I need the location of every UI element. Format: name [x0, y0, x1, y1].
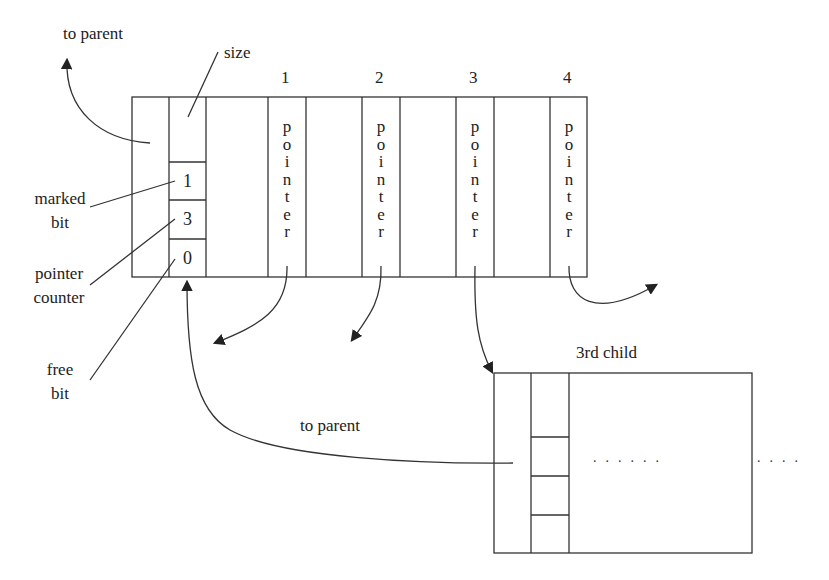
label-third-child: 3rd child	[576, 343, 637, 363]
pointer-slot-2-label: pointer	[371, 118, 391, 241]
label-pointer: pointer	[26, 264, 92, 284]
pointer-slot-3-label: pointer	[465, 118, 485, 241]
label-free: free	[28, 360, 92, 380]
label-counter: counter	[26, 288, 92, 308]
slot-index-1: 1	[281, 68, 290, 88]
label-marked-bit: bit	[28, 213, 92, 233]
label-to-parent-top: to parent	[63, 24, 123, 44]
diagram-canvas	[0, 0, 829, 580]
pointer-counter-value: 3	[169, 209, 206, 230]
slot-index-3: 3	[469, 68, 478, 88]
label-marked: marked	[28, 189, 92, 209]
label-size: size	[224, 43, 250, 63]
label-to-parent-bottom: to parent	[300, 416, 360, 436]
pointer-slot-1-label: pointer	[277, 118, 297, 241]
label-free-bit: bit	[28, 384, 92, 404]
slot-index-4: 4	[563, 68, 572, 88]
ellipsis-outside-child: ....	[757, 450, 807, 466]
ellipsis-inside-child: ......	[593, 450, 668, 466]
slot-index-2: 2	[375, 68, 384, 88]
free-bit-value: 0	[169, 248, 206, 269]
pointer-slot-4-label: pointer	[559, 118, 579, 241]
marked-bit-value: 1	[169, 171, 206, 192]
